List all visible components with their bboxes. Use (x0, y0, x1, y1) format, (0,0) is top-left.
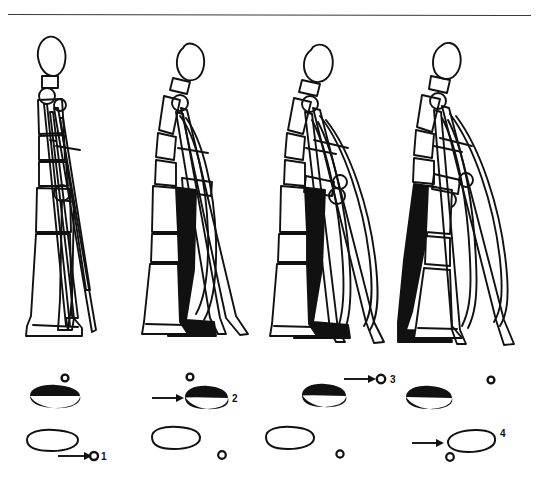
arrow-head-4 (436, 439, 444, 447)
black-footprint-4 (406, 386, 452, 409)
torso-upper-4 (417, 95, 440, 132)
pelvis-3 (284, 160, 305, 186)
torso-mid-3 (285, 133, 305, 160)
outline-footprint-3 (266, 427, 314, 449)
crutch-tip-bottom-3 (336, 450, 343, 457)
black-footprint-3 (302, 384, 347, 407)
figure-root: 1 2 3 4 (0, 0, 540, 488)
footfall-number-1: 1 (101, 451, 107, 462)
thigh-near-3 (280, 186, 307, 232)
black-footprint-1 (30, 385, 80, 408)
arrow-head-3 (368, 375, 376, 383)
crutch-crosspiece-far-3 (314, 140, 348, 148)
black-footprint-2 (185, 386, 229, 409)
phase-4-figure (398, 43, 514, 345)
shank-near-3 (278, 234, 307, 262)
footfall-column-2: 2 (152, 374, 238, 459)
pelvis-4 (413, 158, 434, 184)
footfall-number-2: 2 (232, 393, 238, 404)
neck-1 (42, 76, 58, 88)
phase-3-figure (270, 45, 384, 343)
foot-inner-line-2 (146, 324, 184, 325)
crutch-tip-bottom-4 (446, 453, 454, 461)
head-1 (38, 37, 66, 77)
outline-footprint-4 (448, 430, 495, 452)
thigh-near-2 (152, 186, 178, 232)
crutch-tip-top-4 (488, 377, 495, 384)
neck-4 (429, 76, 450, 93)
footfall-column-4: 4 (406, 377, 506, 461)
phase-1-figure (26, 37, 96, 337)
crutch-tip-top-2 (187, 374, 194, 381)
pelvis-2 (155, 160, 176, 186)
crutch-tip-bottom-1 (90, 452, 98, 460)
neck-2 (170, 78, 190, 94)
crutch-a-crosspiece-1 (50, 140, 56, 141)
footfall-number-3: 3 (390, 374, 396, 385)
elbow-joint-1 (54, 99, 66, 111)
shank-near-2 (151, 234, 179, 262)
crutch-far-rail2-4 (456, 116, 508, 326)
crutch-tip-top-1 (62, 375, 69, 382)
crutch-tip-bottom-2 (218, 451, 226, 459)
top-rule (8, 15, 531, 16)
phase-2-figure (142, 43, 248, 336)
head-3 (304, 45, 333, 82)
footfall-column-1: 1 (27, 375, 107, 462)
foot-inner-line-1 (33, 325, 78, 327)
torso-mid-2 (156, 133, 176, 160)
footfall-number-4: 4 (500, 428, 506, 439)
head-2 (177, 43, 204, 80)
shoulder-joint-1 (39, 88, 55, 104)
outline-footprint-1 (27, 430, 78, 451)
neck-3 (299, 80, 320, 96)
outline-footprint-2 (152, 427, 200, 449)
crutch-tip-top-3 (377, 375, 385, 383)
head-4 (433, 43, 461, 79)
arrow-head-2 (176, 394, 184, 402)
footfall-column-3: 3 (266, 374, 396, 458)
torso-mid-4 (414, 130, 434, 158)
figure-canvas: 1 2 3 4 (0, 0, 540, 488)
foot-inner-line-3 (274, 326, 313, 327)
